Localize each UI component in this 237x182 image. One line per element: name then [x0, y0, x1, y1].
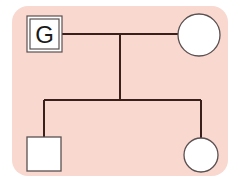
parent-female-symbol [178, 14, 220, 56]
child-female-symbol [184, 138, 218, 172]
parent-male-label: G [30, 23, 59, 47]
child-male-symbol [27, 137, 61, 171]
